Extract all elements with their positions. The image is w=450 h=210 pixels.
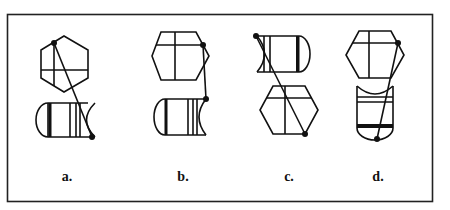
option-d-label: d. (372, 169, 383, 184)
connector-dot-end (302, 131, 308, 137)
figure-canvas: a. b. c. d. (0, 0, 450, 210)
connector-dot-end (203, 96, 209, 102)
connector-dot-start (253, 33, 259, 39)
option-c-label: c. (284, 169, 294, 184)
connector-dot-end (374, 136, 380, 142)
option-b-label: b. (177, 169, 188, 184)
connector-dot-end (89, 134, 95, 140)
connector-dot-start (395, 40, 401, 46)
connector-dot-start (51, 40, 57, 46)
figure-panel: a. b. c. d. (0, 0, 450, 210)
connector-dot-start (200, 42, 206, 48)
option-a-label: a. (62, 169, 73, 184)
